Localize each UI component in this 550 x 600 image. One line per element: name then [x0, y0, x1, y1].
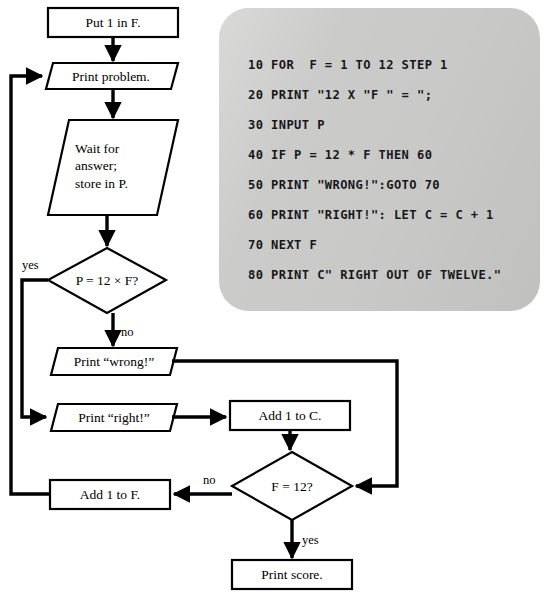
- code-line: 20 PRINT "12 X "F " = ";: [248, 80, 530, 110]
- code-line: 30 INPUT P: [248, 110, 530, 140]
- node-printright-shape: [51, 404, 177, 431]
- code-listing: 10 FOR F = 1 TO 12 STEP 1 20 PRINT "12 X…: [248, 50, 530, 290]
- code-line: 50 PRINT "WRONG!":GOTO 70: [248, 170, 530, 200]
- branch-label-checkF-no: no: [203, 473, 216, 488]
- branch-label-checkanswer-yes: yes: [22, 258, 39, 273]
- node-printscore-shape: [232, 560, 352, 589]
- node-printwrong-shape: [51, 348, 177, 375]
- code-line: 40 IF P = 12 * F THEN 60: [248, 140, 530, 170]
- node-add1toC-shape: [230, 401, 350, 430]
- code-line: 70 NEXT F: [248, 230, 530, 260]
- node-add1toF-shape: [50, 480, 170, 509]
- node-checkF-shape: [232, 452, 352, 520]
- edge-printwrong-to-checkF: [172, 361, 397, 486]
- basic-program-panel: 10 FOR F = 1 TO 12 STEP 1 20 PRINT "12 X…: [219, 8, 540, 311]
- code-line: 60 PRINT "RIGHT!": LET C = C + 1: [248, 200, 530, 230]
- code-line: 80 PRINT C" RIGHT OUT OF TWELVE.": [248, 260, 530, 290]
- edge-add1toF-to-printproblem: [11, 76, 50, 494]
- code-line: 10 FOR F = 1 TO 12 STEP 1: [248, 50, 530, 80]
- node-printproblem-shape: [46, 63, 178, 89]
- edge-checkanswer-yes-to-printright: [22, 280, 48, 417]
- branch-label-checkF-yes: yes: [302, 533, 319, 548]
- node-put1inF-shape: [48, 8, 178, 37]
- branch-label-checkanswer-no: no: [121, 325, 134, 340]
- node-checkanswer-shape: [48, 248, 166, 313]
- figure-root: down to Print "wrong!" --> left, then do…: [0, 0, 550, 600]
- node-waitanswer-shape: [48, 120, 178, 215]
